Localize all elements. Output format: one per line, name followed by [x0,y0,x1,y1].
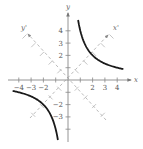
y-prime-tick [49,61,53,65]
x-tick-label: 4 [115,84,120,92]
x-tick-label: 3 [103,84,107,92]
y-prime-tick [57,69,61,73]
hyperbola-diagram: −4−3−2234 432−2−3 x y x' y' [0,0,143,149]
y-prime-axis [28,34,106,120]
x-prime-axis-label: x' [113,24,119,32]
y-axis-label: y [65,3,71,11]
y-prime-tick [31,43,35,47]
x-prime-tick [75,69,79,73]
y-tick-label: −2 [53,101,63,109]
y-tick-label: 3 [59,40,63,48]
y-tick-label: 2 [59,52,63,60]
x-tick-label: −2 [38,84,48,92]
y-tick-label: 4 [59,27,64,35]
main-axes: −4−3−2234 432−2−3 [8,13,131,142]
x-prime-tick [109,35,113,39]
y-prime-tick [23,35,27,39]
x-prime-tick [101,43,105,47]
y-prime-axis-label: y' [20,24,27,32]
x-tick-label: −3 [26,84,36,92]
y-prime-tick [75,87,79,91]
x-axis-label: x [134,76,138,84]
y-tick-label: −3 [53,113,63,121]
x-tick-label: 2 [90,84,94,92]
y-prime-tick [92,104,96,108]
x-prime-tick [83,61,87,65]
y-prime-tick [40,52,44,56]
